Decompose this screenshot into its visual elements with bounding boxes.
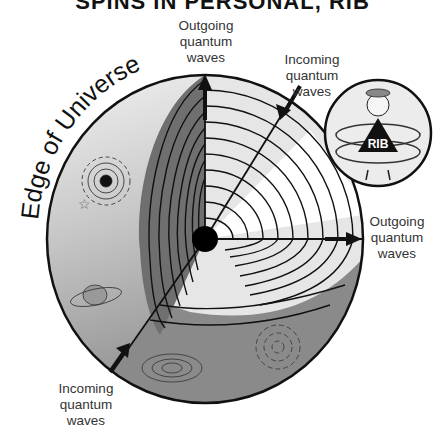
label-line: waves: [178, 50, 234, 66]
label-line: Incoming: [56, 381, 116, 397]
label-line: waves: [56, 413, 116, 429]
label-top-outgoing: Outgoing quantum waves: [178, 18, 234, 66]
label-right-outgoing: Outgoing quantum waves: [366, 214, 428, 262]
label-line: quantum: [178, 34, 234, 50]
label-line: waves: [366, 246, 428, 262]
label-line: Outgoing: [178, 18, 234, 34]
label-line: Outgoing: [366, 214, 428, 230]
rib-badge-text: RIB: [368, 137, 389, 151]
label-line: quantum: [366, 230, 428, 246]
label-line: waves: [282, 84, 342, 100]
label-top-incoming: Incoming quantum waves: [282, 52, 342, 100]
star-icon: ☆: [78, 196, 91, 212]
label-line: quantum: [56, 397, 116, 413]
label-line: quantum: [282, 68, 342, 84]
label-bottom-incoming: Incoming quantum waves: [56, 381, 116, 429]
center-singularity: [192, 226, 218, 252]
label-line: Incoming: [282, 52, 342, 68]
